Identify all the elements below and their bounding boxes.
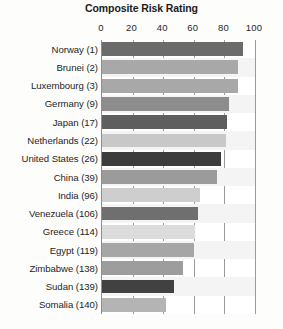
x-tick-label-100: 100 bbox=[246, 22, 262, 33]
bar-row[interactable] bbox=[102, 168, 255, 186]
bar-row[interactable] bbox=[102, 58, 255, 76]
bar[interactable] bbox=[102, 115, 227, 129]
x-tick-label-0: 0 bbox=[98, 22, 103, 33]
bar-row[interactable] bbox=[102, 241, 255, 259]
category-label: Greece (114) bbox=[0, 226, 98, 237]
category-label: Brunei (2) bbox=[0, 62, 98, 73]
category-label: Somalia (140) bbox=[0, 299, 98, 310]
composite-risk-rating-chart: Composite Risk Rating 020406080100 Norwa… bbox=[0, 0, 283, 329]
bar-row[interactable] bbox=[102, 131, 255, 149]
bar-row[interactable] bbox=[102, 77, 255, 95]
bar[interactable] bbox=[102, 280, 174, 294]
bar-row[interactable] bbox=[102, 113, 255, 131]
bar[interactable] bbox=[102, 152, 221, 166]
category-label: Egypt (119) bbox=[0, 245, 98, 256]
bar[interactable] bbox=[102, 243, 194, 257]
bar[interactable] bbox=[102, 207, 198, 221]
bar-row[interactable] bbox=[102, 95, 255, 113]
x-tick-label-60: 60 bbox=[187, 22, 198, 33]
bar[interactable] bbox=[102, 170, 217, 184]
category-label: Sudan (139) bbox=[0, 281, 98, 292]
bar-row[interactable] bbox=[102, 40, 255, 58]
y-axis-category-labels: Norway (1)Brunei (2)Luxembourg (3)German… bbox=[0, 40, 98, 314]
bar[interactable] bbox=[102, 79, 238, 93]
bar[interactable] bbox=[102, 60, 238, 74]
x-tick-label-80: 80 bbox=[218, 22, 229, 33]
category-label: China (39) bbox=[0, 172, 98, 183]
bar[interactable] bbox=[102, 298, 166, 312]
bar[interactable] bbox=[102, 42, 243, 56]
bar[interactable] bbox=[102, 97, 229, 111]
category-label: Norway (1) bbox=[0, 44, 98, 55]
x-tick-label-40: 40 bbox=[157, 22, 168, 33]
category-label: Luxembourg (3) bbox=[0, 80, 98, 91]
bar-row[interactable] bbox=[102, 259, 255, 277]
bar[interactable] bbox=[102, 188, 200, 202]
bar-row[interactable] bbox=[102, 204, 255, 222]
category-label: India (96) bbox=[0, 190, 98, 201]
category-label: Zimbabwe (138) bbox=[0, 263, 98, 274]
gridline-100 bbox=[255, 40, 256, 314]
bar-row[interactable] bbox=[102, 150, 255, 168]
chart-title: Composite Risk Rating bbox=[0, 2, 283, 14]
bar[interactable] bbox=[102, 134, 226, 148]
bar-row[interactable] bbox=[102, 186, 255, 204]
bar-row[interactable] bbox=[102, 296, 255, 314]
x-axis-tick-labels: 020406080100 bbox=[0, 22, 283, 37]
bar[interactable] bbox=[102, 225, 195, 239]
category-label: Netherlands (22) bbox=[0, 135, 98, 146]
bar-row[interactable] bbox=[102, 223, 255, 241]
bar-row[interactable] bbox=[102, 277, 255, 295]
category-label: Venezuela (106) bbox=[0, 208, 98, 219]
plot-area bbox=[101, 40, 255, 314]
x-tick-label-20: 20 bbox=[126, 22, 137, 33]
category-label: Japan (17) bbox=[0, 117, 98, 128]
category-label: United States (26) bbox=[0, 153, 98, 164]
category-label: Germany (9) bbox=[0, 98, 98, 109]
bar[interactable] bbox=[102, 261, 183, 275]
